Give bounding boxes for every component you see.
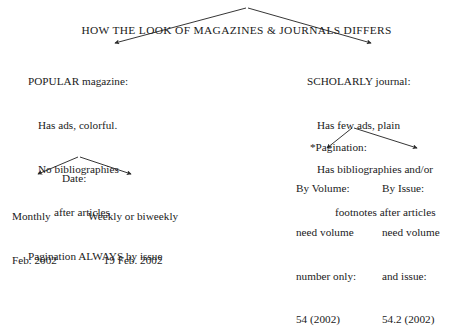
by-issue-label: By Issue:	[382, 181, 440, 196]
by-volume-detail-2: number only:	[296, 269, 356, 284]
by-volume-label: By Volume:	[296, 181, 356, 196]
popular-sub-label-date: Date:	[62, 142, 86, 215]
by-volume-example: 54 (2002)	[296, 312, 356, 327]
weekly-label: Weekly or biweekly	[88, 209, 178, 224]
leaf-weekly-biweekly: Weekly or biweekly 19 Feb. 2002	[88, 180, 178, 297]
popular-line-no-bibliographies: No bibliographies	[28, 162, 162, 177]
by-volume-detail-1: need volume	[296, 225, 356, 240]
by-issue-example: 54.2 (2002)	[382, 312, 440, 327]
leaf-by-volume: By Volume: need volume number only: 54 (…	[296, 152, 356, 330]
scholarly-heading: SCHOLARLY journal:	[307, 74, 436, 89]
monthly-label: Monthly	[12, 209, 57, 224]
popular-heading: POPULAR magazine:	[28, 74, 162, 89]
diagram-title-text: HOW THE LOOK OF MAGAZINES & JOURNALS DIF…	[0, 23, 473, 38]
by-issue-detail-2: and issue:	[382, 269, 440, 284]
by-issue-detail-1: need volume	[382, 225, 440, 240]
monthly-example: Feb. 2002	[12, 253, 57, 268]
leaf-by-issue: By Issue: need volume and issue: 54.2 (2…	[382, 152, 440, 330]
date-label-text: Date:	[62, 171, 86, 186]
popular-line-ads: Has ads, colorful.	[28, 118, 162, 133]
leaf-monthly: Monthly Feb. 2002	[12, 180, 57, 297]
weekly-example: 19 Feb. 2002	[88, 253, 178, 268]
